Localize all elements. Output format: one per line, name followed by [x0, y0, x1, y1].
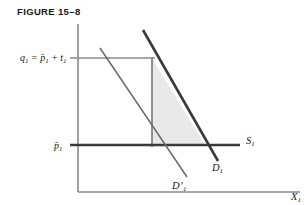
curve-label-d1: D1 — [211, 162, 223, 175]
deadweight-loss-triangle — [152, 58, 205, 145]
y-tick-label-q1: q1=p̄1+t1 — [20, 52, 67, 65]
figure-container: FIGURE 15–8 q1=p̄1+t1 p̄1 S1 D1 D’1 X1 — [0, 0, 307, 205]
plot-area: q1=p̄1+t1 p̄1 S1 D1 D’1 X1 — [0, 0, 307, 205]
y-tick-label-p1: p̄1 — [53, 140, 63, 153]
x-axis-label: X1 — [290, 191, 301, 204]
curve-label-s1: S1 — [246, 135, 255, 148]
curve-label-d1-prime: D’1 — [171, 180, 187, 193]
